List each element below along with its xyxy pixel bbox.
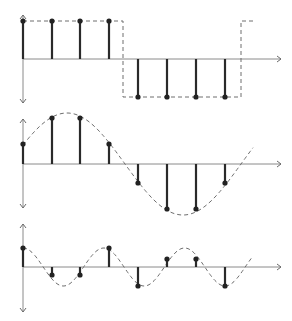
sample-dot — [106, 245, 111, 250]
sample-dot — [135, 283, 140, 288]
sample-dot — [222, 283, 227, 288]
panel-aliased-cosine — [20, 224, 281, 312]
sample-dot — [106, 141, 111, 146]
sample-dot — [77, 115, 82, 120]
sample-dot — [20, 245, 25, 250]
sample-dot — [77, 18, 82, 23]
sample-dot — [164, 94, 169, 99]
sample-dot — [49, 115, 54, 120]
sample-dot — [222, 180, 227, 185]
sample-dot — [106, 18, 111, 23]
sample-dot — [49, 18, 54, 23]
sample-dot — [164, 206, 169, 211]
sample-dot — [135, 94, 140, 99]
panel-square-wave — [20, 15, 281, 103]
sample-dot — [222, 94, 227, 99]
sampled-signals-figure — [0, 0, 292, 321]
sample-dot — [49, 272, 54, 277]
sample-dot — [193, 94, 198, 99]
sample-dot — [77, 272, 82, 277]
sample-dot — [193, 206, 198, 211]
sample-dot — [20, 18, 25, 23]
sample-dot — [20, 141, 25, 146]
sample-dot — [193, 256, 198, 261]
panel-sine-wave — [20, 113, 281, 215]
sample-dot — [135, 180, 140, 185]
sample-dot — [164, 256, 169, 261]
